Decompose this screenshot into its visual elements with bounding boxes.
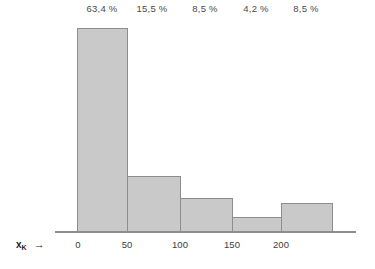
x-tick-label-150: 150	[224, 239, 240, 250]
histogram-bar-bin-5	[281, 203, 333, 232]
x-axis-label-subscript: K	[22, 244, 27, 251]
histogram-bar-bin-3	[180, 198, 233, 232]
x-tick-label-50: 50	[122, 239, 133, 250]
histogram-bar-bin-2	[127, 176, 181, 232]
histogram-figure: 63,4 % 15,5 % 8,5 % 4,2 % 8,5 % 0 50 100…	[0, 0, 375, 269]
x-axis-line	[55, 231, 356, 233]
right-arrow-icon: →	[34, 238, 45, 250]
histogram-bar-bin-1	[77, 28, 128, 232]
x-axis-label: xK→	[16, 238, 45, 250]
x-tick-label-200: 200	[273, 239, 289, 250]
x-tick-label-0: 0	[75, 239, 80, 250]
histogram-bar-bin-4	[232, 217, 282, 232]
plot-area	[0, 0, 375, 269]
x-tick-label-100: 100	[172, 239, 188, 250]
